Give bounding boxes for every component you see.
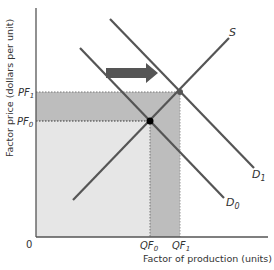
d1-label: D1 bbox=[252, 168, 266, 183]
d0-label: D0 bbox=[226, 196, 240, 211]
pf0-label: PF0 bbox=[17, 116, 34, 129]
qf1-label: QF1 bbox=[172, 240, 190, 253]
x-axis-title: Factor of production (units) bbox=[143, 253, 272, 264]
origin-label: 0 bbox=[26, 239, 32, 250]
qf0-label: QF0 bbox=[140, 240, 159, 253]
demand-shift-arrow-icon bbox=[106, 63, 158, 83]
y-axis-title: Factor price (dollars per unit) bbox=[4, 19, 15, 157]
supply-label: S bbox=[229, 26, 236, 39]
new-equilibrium-point bbox=[177, 89, 183, 95]
factor-market-chart: S D1 D0 PF1 PF0 QF0 QF1 0 Factor of prod… bbox=[0, 0, 274, 270]
pf1-label: PF1 bbox=[18, 87, 34, 100]
chart-canvas: S D1 D0 PF1 PF0 QF0 QF1 0 Factor of prod… bbox=[0, 0, 274, 270]
initial-equilibrium-point bbox=[147, 118, 154, 125]
